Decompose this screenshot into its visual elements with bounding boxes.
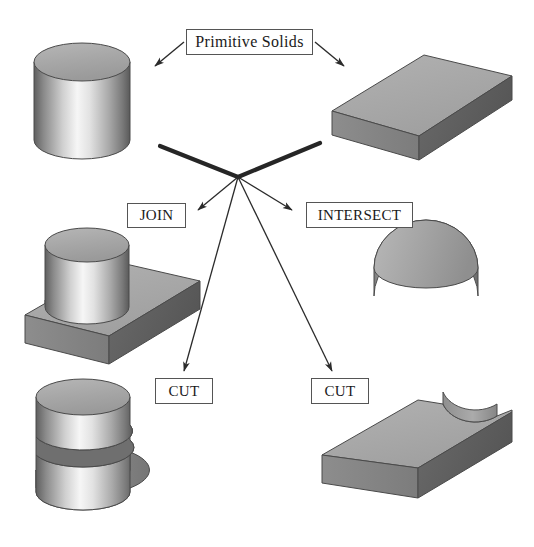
- cylinder-primitive-shape: [34, 43, 130, 159]
- label-primitive-solids: Primitive Solids: [186, 29, 313, 55]
- intersect-result-shape: [374, 220, 478, 316]
- join-result-shape: [25, 228, 200, 364]
- line-cylinder-to-hub: [160, 146, 238, 177]
- label-cut-left: CUT: [155, 378, 213, 404]
- arrow-primitive-to-box: [315, 42, 344, 66]
- cut-left-result-shape: [36, 379, 149, 510]
- arrow-hub-to-join: [198, 177, 238, 210]
- arrow-primitive-to-cylinder: [155, 42, 184, 66]
- label-join: JOIN: [127, 203, 186, 228]
- arrow-hub-to-cut-left: [184, 177, 238, 371]
- diagram-canvas: [0, 0, 534, 547]
- line-box-to-hub: [238, 143, 320, 177]
- label-intersect: INTERSECT: [306, 202, 413, 228]
- cut-right-result-shape: [322, 392, 512, 498]
- boolean-operations-diagram: Primitive Solids JOIN INTERSECT CUT CUT: [0, 0, 534, 547]
- box-primitive-shape: [332, 55, 512, 160]
- label-cut-right: CUT: [311, 378, 369, 404]
